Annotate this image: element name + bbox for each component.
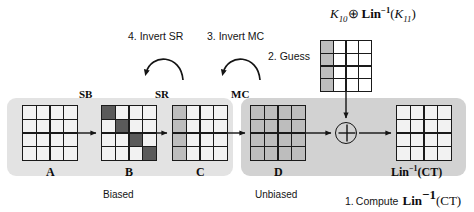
step-label-compute-exp: −1 xyxy=(422,187,436,202)
grid-cell xyxy=(292,147,305,160)
step-label-compute-prefix: 1. Compute xyxy=(345,195,398,207)
grid-cell xyxy=(321,79,333,91)
grid-cell xyxy=(130,106,143,119)
grid-cell xyxy=(116,120,129,133)
grid-cell xyxy=(201,106,214,119)
grid-cell xyxy=(438,106,451,119)
region-label-unbiased: Unbiased xyxy=(255,190,297,200)
grid-cell xyxy=(359,54,371,66)
grid-cell xyxy=(292,106,305,119)
grid-cell xyxy=(51,134,64,147)
grid-cell xyxy=(334,67,346,79)
grid-cell xyxy=(116,147,129,160)
grid-cell xyxy=(279,147,292,160)
grid-cell xyxy=(411,120,424,133)
grid-cell xyxy=(37,147,50,160)
grid-cell xyxy=(23,106,36,119)
grid-cell xyxy=(265,134,278,147)
grid-cell xyxy=(265,120,278,133)
key-formula-lin-exp: −1 xyxy=(381,5,390,15)
grid-cell xyxy=(425,106,438,119)
grid-cell xyxy=(411,106,424,119)
operation-label-mc: MC xyxy=(231,89,249,100)
grid-cell xyxy=(251,106,264,119)
grid-cell xyxy=(143,147,156,160)
key-formula-k11: K11 xyxy=(395,6,412,21)
grid-cell xyxy=(397,106,410,119)
step-label-compute-ct: 1. ComputeLin−1(CT) xyxy=(345,188,461,208)
grid-cell xyxy=(102,106,115,119)
grid-cell xyxy=(438,147,451,160)
state-grid-b xyxy=(101,105,157,161)
grid-cell xyxy=(425,134,438,147)
grid-cell xyxy=(279,106,292,119)
grid-cell xyxy=(214,120,227,133)
grid-cell xyxy=(397,120,410,133)
grid-cell xyxy=(334,54,346,66)
state-grid-a xyxy=(22,105,78,161)
grid-cell xyxy=(265,147,278,160)
grid-cell xyxy=(130,147,143,160)
key-formula-lin: Lin xyxy=(362,6,382,21)
grid-cell xyxy=(102,120,115,133)
grid-cell xyxy=(334,79,346,91)
grid-cell xyxy=(51,147,64,160)
arrow-invert-sr-curve xyxy=(146,59,183,80)
grid-cell xyxy=(37,120,50,133)
grid-cell xyxy=(251,134,264,147)
state-label-a: A xyxy=(46,166,55,178)
operation-label-sr: SR xyxy=(155,89,169,100)
step-label-compute-lin: Lin xyxy=(402,193,422,208)
grid-cell xyxy=(187,147,200,160)
step-label-invert-mc: 3. Invert MC xyxy=(207,31,264,42)
grid-cell xyxy=(251,147,264,160)
grid-cell xyxy=(23,147,36,160)
grid-cell xyxy=(292,120,305,133)
grid-cell xyxy=(64,147,77,160)
grid-cell xyxy=(425,147,438,160)
key-formula-k10-sub: 10 xyxy=(339,14,348,24)
key-formula-xor-icon: ⊕ xyxy=(348,6,359,21)
grid-cell xyxy=(347,67,359,79)
grid-cell xyxy=(173,120,186,133)
state-grid-ct xyxy=(396,105,452,161)
state-label-b: B xyxy=(125,166,133,178)
grid-cell xyxy=(201,134,214,147)
grid-cell xyxy=(292,134,305,147)
grid-cell xyxy=(359,41,371,53)
grid-cell xyxy=(116,134,129,147)
cryptanalysis-diagram: K10⊕Lin−1(K11) A B C D xyxy=(0,0,474,212)
grid-cell xyxy=(64,134,77,147)
state-grid-d xyxy=(250,105,306,161)
grid-cell xyxy=(279,120,292,133)
grid-cell xyxy=(23,120,36,133)
grid-cell xyxy=(116,106,129,119)
grid-cell xyxy=(51,120,64,133)
grid-cell xyxy=(347,41,359,53)
grid-cell xyxy=(201,120,214,133)
grid-cell xyxy=(143,120,156,133)
arrow-invert-mc-curve xyxy=(223,59,260,80)
key-formula-close-paren: ) xyxy=(411,6,415,21)
grid-cell xyxy=(425,120,438,133)
grid-cell xyxy=(347,79,359,91)
grid-cell xyxy=(321,67,333,79)
key-formula-open-paren: ( xyxy=(390,6,394,21)
grid-cell xyxy=(321,54,333,66)
grid-cell xyxy=(187,106,200,119)
step-label-guess: 2. Guess xyxy=(268,51,310,62)
grid-cell xyxy=(321,41,333,53)
state-grid-c xyxy=(172,105,228,161)
xor-node xyxy=(335,122,357,144)
operation-label-sb: SB xyxy=(79,89,92,100)
grid-cell xyxy=(438,134,451,147)
ct-label-lin: Lin xyxy=(391,165,409,179)
grid-cell xyxy=(359,67,371,79)
grid-cell xyxy=(173,106,186,119)
grid-cell xyxy=(187,120,200,133)
grid-cell xyxy=(23,134,36,147)
grid-cell xyxy=(279,134,292,147)
grid-cell xyxy=(214,106,227,119)
grid-cell xyxy=(438,120,451,133)
key-formula-k10: K10 xyxy=(330,6,348,21)
